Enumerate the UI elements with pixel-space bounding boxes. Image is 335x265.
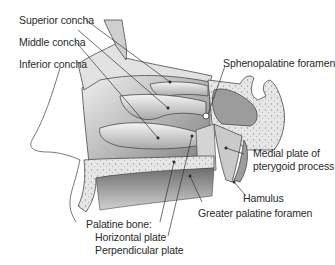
label-sphenopalatine-foramen: Sphenopalatine foramen	[223, 57, 335, 69]
label-inferior-concha: Inferior concha	[19, 58, 87, 70]
label-middle-concha: Middle concha	[19, 36, 85, 48]
label-hamulus: Hamulus	[243, 192, 284, 204]
superior-concha-shape	[150, 82, 208, 97]
label-perpendicular-plate: Perpendicular plate	[95, 244, 184, 256]
label-greater-palatine-foramen: Greater palatine foramen	[198, 207, 312, 219]
label-superior-concha: Superior concha	[19, 14, 94, 26]
nose-profile-outline	[31, 68, 80, 222]
label-medial-plate-line2: pterygoid process	[253, 160, 334, 172]
label-horizontal-plate: Horizontal plate	[95, 231, 166, 243]
label-palatine-bone: Palatine bone:	[86, 218, 152, 230]
label-medial-plate-line1: Medial plate of	[253, 147, 320, 159]
